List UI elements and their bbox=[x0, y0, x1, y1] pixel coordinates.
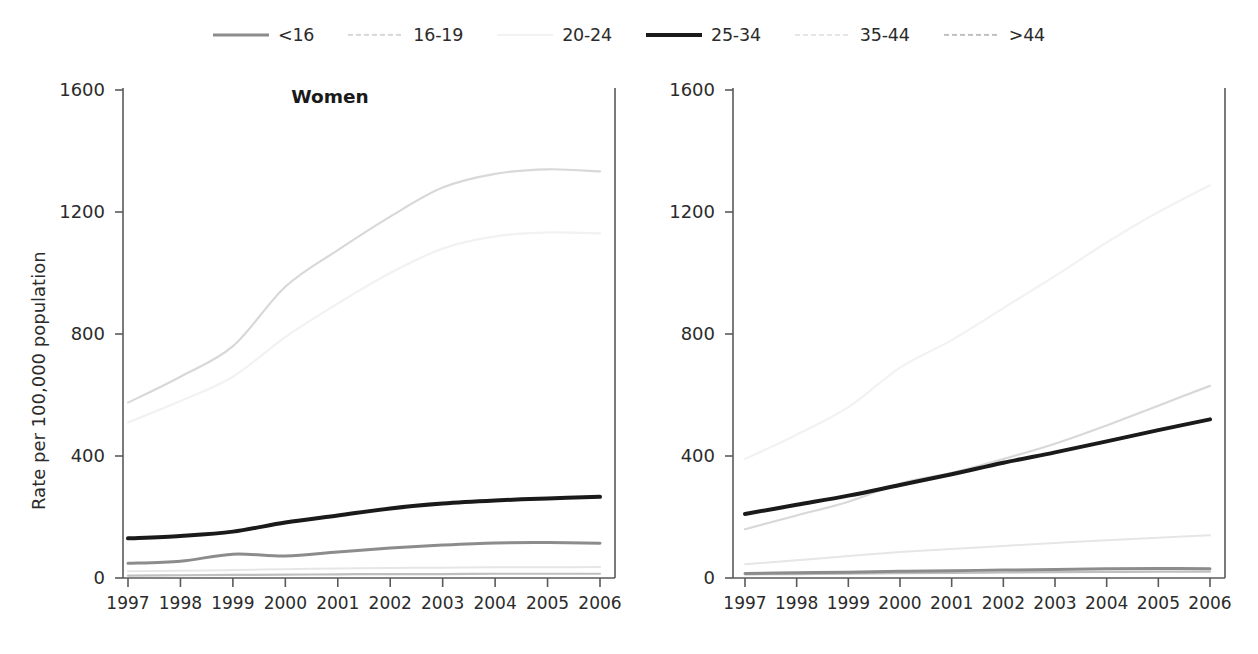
series-line-20-24 bbox=[745, 185, 1210, 459]
plot-men bbox=[0, 0, 1258, 654]
series-line-16-19 bbox=[745, 386, 1210, 529]
series-line-25-34 bbox=[745, 419, 1210, 514]
figure-root: <1616-1920-2425-3435-44>44 Women Rate pe… bbox=[0, 0, 1258, 654]
series-line-35-44 bbox=[745, 535, 1210, 564]
